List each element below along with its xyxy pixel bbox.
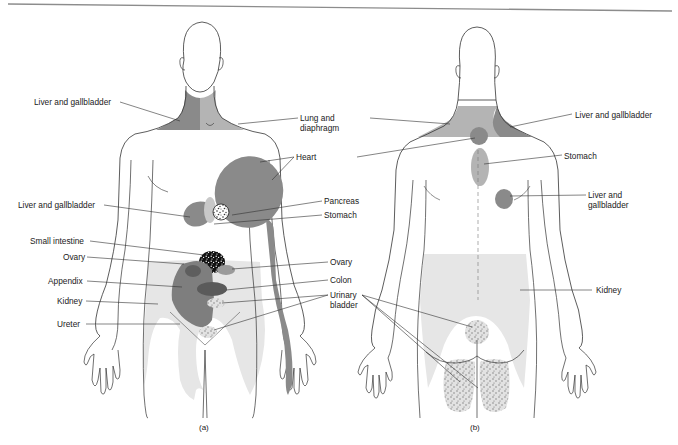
- ovary-right-region-a: [217, 265, 235, 275]
- label-kidney-a: Kidney: [57, 296, 82, 306]
- head-outline-b: [458, 27, 496, 100]
- label-stomach-a: Stomach: [324, 210, 357, 220]
- neck-liver-region-a: [156, 90, 200, 130]
- label-liver-gallbladder-neck-a: Liver and gallbladder: [34, 97, 111, 107]
- label-ovary-right-a: Ovary: [330, 257, 352, 267]
- arm-inner-left-a: [112, 160, 131, 350]
- label-lung-diaphragm-a-line1: Lung and: [300, 113, 335, 123]
- crotch-a: [203, 350, 207, 418]
- ureter-region-a: [199, 326, 217, 338]
- label-urinary-bladder-a-line2: bladder: [330, 300, 358, 310]
- hand-left-b: [358, 348, 392, 398]
- label-liver-gallbladder-back-b-line1: Liver and: [588, 190, 622, 200]
- arm-inner-right-b: [541, 180, 566, 358]
- ovary-left-region-a: [185, 265, 201, 277]
- liver-gallbladder-region-b: [495, 189, 513, 209]
- arm-inner-left-b: [388, 180, 413, 358]
- panel-a-body: [84, 22, 328, 418]
- caption-a: (a): [199, 423, 209, 432]
- leg-left-a: [144, 395, 148, 418]
- scapula-left-b: [424, 186, 440, 200]
- label-kidney-b: Kidney: [596, 285, 621, 295]
- label-liver-gallbladder-abdomen-a: Liver and gallbladder: [18, 200, 95, 210]
- label-heart-a: Heart: [296, 152, 316, 162]
- label-colon-a: Colon: [330, 275, 352, 285]
- label-liver-gallbladder-back-b-line2: gallbladder: [588, 200, 629, 210]
- buttock-left-region-b: [443, 359, 475, 412]
- panel-b-body: [357, 27, 596, 418]
- buttock-right-region-b: [480, 359, 510, 412]
- label-appendix-a: Appendix: [48, 276, 83, 286]
- label-ovary-left-a: Ovary: [63, 252, 85, 262]
- label-stomach-b: Stomach: [564, 151, 597, 161]
- label-pancreas-a: Pancreas: [324, 196, 359, 206]
- pancreas-region-a: [213, 204, 229, 220]
- heart-region-b: [470, 127, 488, 145]
- label-lung-diaphragm-a-line2: diaphragm: [300, 123, 339, 133]
- label-liver-gallbladder-neck-b: Liver and gallbladder: [575, 110, 652, 120]
- figure-svg: [0, 0, 678, 445]
- hand-right-b: [562, 348, 596, 398]
- heart-arm-region-a: [266, 218, 293, 395]
- label-small-intestine-a: Small intestine: [30, 236, 84, 246]
- leg-right-a: [252, 395, 256, 418]
- top-rule: [8, 4, 672, 11]
- colon-region-a: [197, 282, 227, 296]
- label-urinary-bladder-a-line1: Urinary: [330, 290, 357, 300]
- scapula-right-b: [514, 186, 530, 200]
- stomach-region-b: [471, 148, 489, 186]
- label-ureter-a: Ureter: [57, 319, 80, 329]
- chest-line-a: [148, 176, 168, 192]
- head-outline-a: [183, 22, 221, 92]
- referred-pain-figure: Liver and gallbladder Lung and diaphragm…: [0, 0, 678, 445]
- caption-b: (b): [470, 423, 480, 432]
